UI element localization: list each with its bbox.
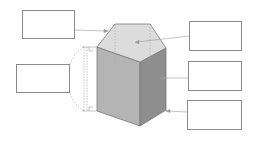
label-box-right-1[interactable] [189, 21, 242, 51]
label-box-left[interactable] [16, 64, 70, 93]
prism-diagram [0, 0, 255, 141]
leader-right-3 [168, 111, 187, 112]
leader-top-left [75, 30, 107, 31]
label-box-right-3[interactable] [187, 100, 242, 130]
arrowhead-icon [104, 30, 108, 33]
label-box-right-2[interactable] [188, 61, 242, 91]
label-box-top-left[interactable] [22, 10, 75, 39]
height-marker [70, 47, 97, 111]
arrowhead-icon [166, 110, 170, 113]
